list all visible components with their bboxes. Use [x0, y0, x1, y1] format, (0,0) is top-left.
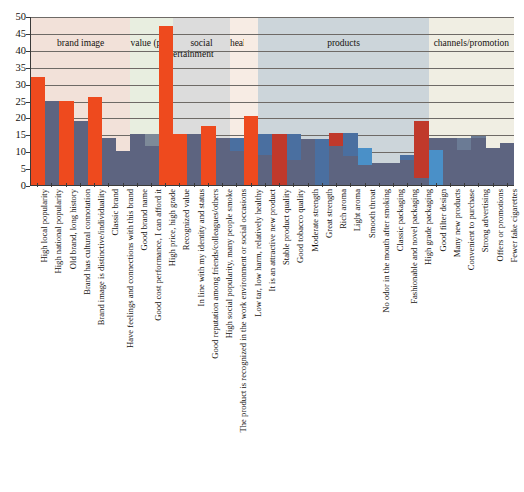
bar[interactable]	[258, 17, 272, 185]
bar-slot[interactable]	[74, 17, 88, 185]
bar-slot[interactable]	[443, 17, 457, 185]
x-label-slot: Strong advertising	[471, 187, 485, 417]
bar[interactable]	[457, 17, 471, 185]
bar-slot[interactable]	[287, 17, 301, 185]
x-label-slot: Have feelings and connections with this …	[115, 187, 129, 417]
bar-slot[interactable]	[59, 17, 73, 185]
bar-segment-secondary	[216, 138, 230, 185]
bar-slot[interactable]	[343, 17, 357, 185]
bar[interactable]	[74, 17, 88, 185]
bar-slot[interactable]	[272, 17, 286, 185]
bar[interactable]	[187, 17, 201, 185]
bar-segment-primary	[88, 97, 102, 185]
bar[interactable]	[414, 17, 428, 185]
bar[interactable]	[45, 17, 59, 185]
bar[interactable]	[471, 17, 485, 185]
bar-slot[interactable]	[315, 17, 329, 185]
bar[interactable]	[372, 17, 386, 185]
bar-slot[interactable]	[329, 17, 343, 185]
bar[interactable]	[130, 17, 144, 185]
x-tick-mark	[493, 183, 494, 187]
bar-segment-secondary	[443, 138, 457, 185]
bar[interactable]	[329, 17, 343, 185]
x-tick-mark	[94, 183, 95, 187]
bar-segment-primary	[59, 101, 73, 186]
bar[interactable]	[102, 17, 116, 185]
x-label-slot: Offers or promotions	[486, 187, 500, 417]
bar-segment-primary	[244, 116, 258, 185]
bar[interactable]	[145, 17, 159, 185]
bar[interactable]	[386, 17, 400, 185]
bar[interactable]	[216, 17, 230, 185]
bar[interactable]	[244, 17, 258, 185]
bar-slot[interactable]	[45, 17, 59, 185]
bar-segment-primary	[272, 134, 286, 185]
bar-slot[interactable]	[201, 17, 215, 185]
bar-slot[interactable]	[216, 17, 230, 185]
bar[interactable]	[429, 17, 443, 185]
x-tick-mark	[51, 183, 52, 187]
bar[interactable]	[116, 17, 130, 185]
bar-segment-secondary	[429, 150, 443, 185]
bar-slot[interactable]	[159, 17, 173, 185]
x-label-slot: High national popularity	[44, 187, 58, 417]
bar[interactable]	[201, 17, 215, 185]
bar[interactable]	[287, 17, 301, 185]
x-label-slot: Fewer fake cigarettes	[500, 187, 514, 417]
bar[interactable]	[159, 17, 173, 185]
bar-slot[interactable]	[145, 17, 159, 185]
bar-slot[interactable]	[88, 17, 102, 185]
bar-slot[interactable]	[386, 17, 400, 185]
bar-slot[interactable]	[429, 17, 443, 185]
x-label-slot: High social popularity, many people smok…	[215, 187, 229, 417]
bar[interactable]	[343, 17, 357, 185]
bar-slot[interactable]	[457, 17, 471, 185]
bar-slot[interactable]	[230, 17, 244, 185]
x-tick-mark	[66, 183, 67, 187]
x-tick-mark	[450, 183, 451, 187]
bar[interactable]	[486, 17, 500, 185]
bar[interactable]	[500, 17, 514, 185]
x-tick-mark	[123, 183, 124, 187]
bar[interactable]	[358, 17, 372, 185]
x-label-slot: Low tar, low harm, relatively healthy	[244, 187, 258, 417]
bar[interactable]	[31, 17, 45, 185]
bar-slot[interactable]	[301, 17, 315, 185]
y-tick-label: 30	[16, 79, 27, 90]
bar[interactable]	[173, 17, 187, 185]
bar[interactable]	[443, 17, 457, 185]
bar[interactable]	[315, 17, 329, 185]
bar[interactable]	[88, 17, 102, 185]
bar[interactable]	[230, 17, 244, 185]
bar-slot[interactable]	[414, 17, 428, 185]
bar-slot[interactable]	[130, 17, 144, 185]
bar-slot[interactable]	[486, 17, 500, 185]
bar-slot[interactable]	[258, 17, 272, 185]
bar-slot[interactable]	[102, 17, 116, 185]
x-label-slot: Smooth throat	[357, 187, 371, 417]
bar-slot[interactable]	[116, 17, 130, 185]
bar-slot[interactable]	[372, 17, 386, 185]
bar-segment-primary	[159, 26, 173, 185]
bar-slot[interactable]	[187, 17, 201, 185]
bar[interactable]	[301, 17, 315, 185]
x-tick-mark	[236, 183, 237, 187]
bar[interactable]	[400, 17, 414, 185]
bar-segment-secondary	[301, 139, 315, 185]
x-tick-mark	[393, 183, 394, 187]
bar-slot[interactable]	[244, 17, 258, 185]
bar-slot[interactable]	[400, 17, 414, 185]
x-label-slot: Good brand name	[130, 187, 144, 417]
bar-slot[interactable]	[31, 17, 45, 185]
x-label-slot: High price, high grade	[158, 187, 172, 417]
bar-slot[interactable]	[500, 17, 514, 185]
bar-segment-primary	[201, 126, 215, 185]
bar-slot[interactable]	[471, 17, 485, 185]
bar-slot[interactable]	[358, 17, 372, 185]
x-tick-mark	[436, 183, 437, 187]
bar-slot[interactable]	[173, 17, 187, 185]
bar[interactable]	[59, 17, 73, 185]
bar[interactable]	[272, 17, 286, 185]
bar-segment-secondary	[230, 151, 244, 185]
